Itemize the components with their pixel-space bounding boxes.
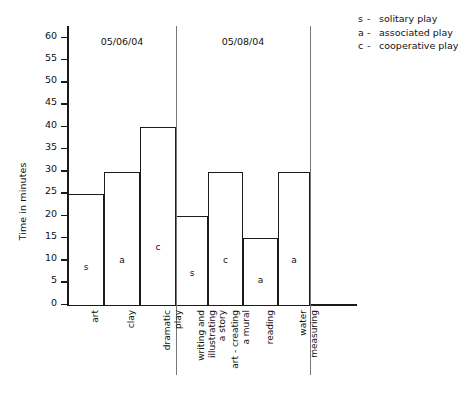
legend: s-solitary playa-associated playc-cooper… [358,12,458,53]
bar-chart: Time in minutes 605550454035302520151050… [0,0,461,393]
y-tick: 50 [61,81,68,82]
bar: s [68,194,104,305]
category-label-line: reading [265,310,276,393]
category-label-line: clay [126,310,137,393]
y-tick-label: 5 [51,274,57,285]
group-date-label: 05/08/04 [176,36,310,47]
y-tick-label: 15 [45,230,57,241]
bar-code-label: a [105,255,139,265]
category-label: dramaticplay [162,310,183,393]
bar-code-label: a [279,255,309,265]
category-label-line: a mural [240,310,251,393]
y-tick: 60 [61,37,68,38]
y-tick-label: 50 [45,74,57,85]
y-tick-label: 20 [45,208,57,219]
y-tick: 20 [61,215,68,216]
y-tick-label: 55 [45,52,57,63]
category-label-line: measuring [309,310,320,393]
bar-code-label: s [69,262,103,272]
y-tick: 10 [61,259,68,260]
bar: s [176,216,208,305]
y-tick: 45 [61,103,68,104]
y-tick-label: 25 [45,185,57,196]
y-tick: 15 [61,237,68,238]
bar-code-label: c [141,242,175,252]
legend-item: a-associated play [358,26,458,40]
y-tick: 5 [61,281,68,282]
category-label-line: a story [217,310,228,393]
legend-item: c-cooperative play [358,39,458,53]
category-label-line: illustrating [207,310,218,393]
bar: c [140,127,176,305]
y-tick-label: 60 [45,30,57,41]
legend-label: associated play [379,26,453,40]
legend-dash: - [367,12,379,26]
legend-item: s-solitary play [358,12,458,26]
y-tick: 55 [61,59,68,60]
category-label: art - creatinga mural [230,310,251,393]
bar-code-label: s [177,268,207,278]
y-tick: 0 [61,304,68,305]
legend-label: solitary play [379,12,437,26]
y-tick-label: 40 [45,119,57,130]
legend-key: s [358,12,367,26]
legend-key: a [358,26,367,40]
y-tick-label: 35 [45,141,57,152]
y-tick: 35 [61,148,68,149]
category-label: clay [126,310,137,393]
legend-key: c [358,39,367,53]
category-label-line: art [90,310,101,393]
plot-area: 605550454035302520151050 sacscaa 05/06/0… [68,38,310,305]
bar: a [104,172,140,306]
category-label-line: art - creating [230,310,241,393]
y-tick: 25 [61,192,68,193]
category-label-line: water [298,310,309,393]
y-tick-label: 0 [51,297,57,308]
y-tick: 40 [61,126,68,127]
y-tick-label: 45 [45,96,57,107]
legend-dash: - [367,39,379,53]
y-axis-title: Time in minutes [17,137,28,267]
category-label: watermeasuring [298,310,319,393]
category-label-line: play [173,310,184,393]
category-label: art [90,310,101,393]
category-label: writing andillustratinga story [196,310,228,393]
category-label-line: dramatic [162,310,173,393]
legend-label: cooperative play [379,39,458,53]
bar: a [243,238,278,305]
category-label: reading [265,310,276,393]
bar-code-label: a [244,275,277,285]
bar-code-label: c [209,255,242,265]
bar: a [278,172,310,306]
category-label-line: writing and [196,310,207,393]
y-tick-label: 10 [45,252,57,263]
legend-dash: - [367,26,379,40]
y-tick-label: 30 [45,163,57,174]
bar: c [208,172,243,306]
group-date-label: 05/06/04 [68,36,176,47]
y-tick: 30 [61,170,68,171]
